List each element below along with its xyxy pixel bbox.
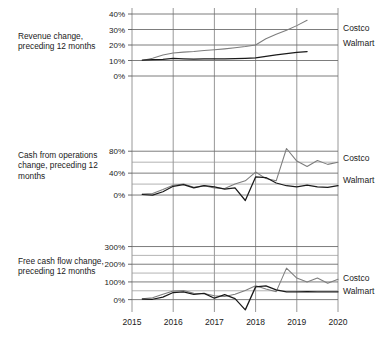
y-tick-label: 10%: [109, 57, 125, 66]
x-tick-label-2019: 2019: [287, 317, 306, 327]
x-tick-label-2018: 2018: [246, 317, 265, 327]
x-tick-label-2017: 2017: [205, 317, 224, 327]
panel-caption-revenue: Revenue change, preceding 12 months: [18, 31, 114, 52]
series-label-costco: Costco: [343, 273, 370, 283]
series-label-walmart: Walmart: [343, 286, 375, 296]
y-tick-label: 300%: [105, 243, 125, 252]
x-tick-label-2016: 2016: [164, 317, 183, 327]
panel-caption-cash-operations: Cash from operations change, preceding 1…: [18, 150, 114, 181]
series-label-costco: Costco: [343, 153, 370, 163]
series-label-walmart: Walmart: [343, 38, 375, 48]
y-tick-label: 0%: [113, 72, 125, 81]
series-label-costco: Costco: [343, 23, 370, 33]
y-tick-label: 40%: [109, 10, 125, 19]
panel-caption-free-cash-flow: Free cash flow change, preceding 12 mont…: [18, 256, 114, 277]
x-tick-label-2020: 2020: [329, 317, 348, 327]
x-tick-label-2015: 2015: [123, 317, 142, 327]
series-label-walmart: Walmart: [343, 175, 375, 185]
y-tick-label: 100%: [105, 278, 125, 287]
y-tick-label: 0%: [113, 296, 125, 305]
y-tick-label: 0%: [113, 191, 125, 200]
small-multiples-figure: 0%10%20%30%40%CostcoWalmart 0%40%80%Cost…: [0, 0, 391, 341]
